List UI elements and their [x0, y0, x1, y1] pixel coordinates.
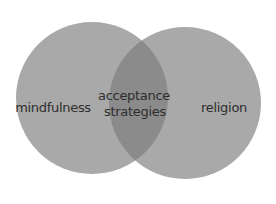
strategies-label: strategies	[104, 104, 166, 119]
acceptance-label: acceptance	[98, 88, 170, 103]
mindfulness-label: mindfulness	[15, 100, 91, 115]
venn-diagram: mindfulness acceptance strategies religi…	[0, 0, 276, 204]
religion-label: religion	[201, 100, 247, 115]
